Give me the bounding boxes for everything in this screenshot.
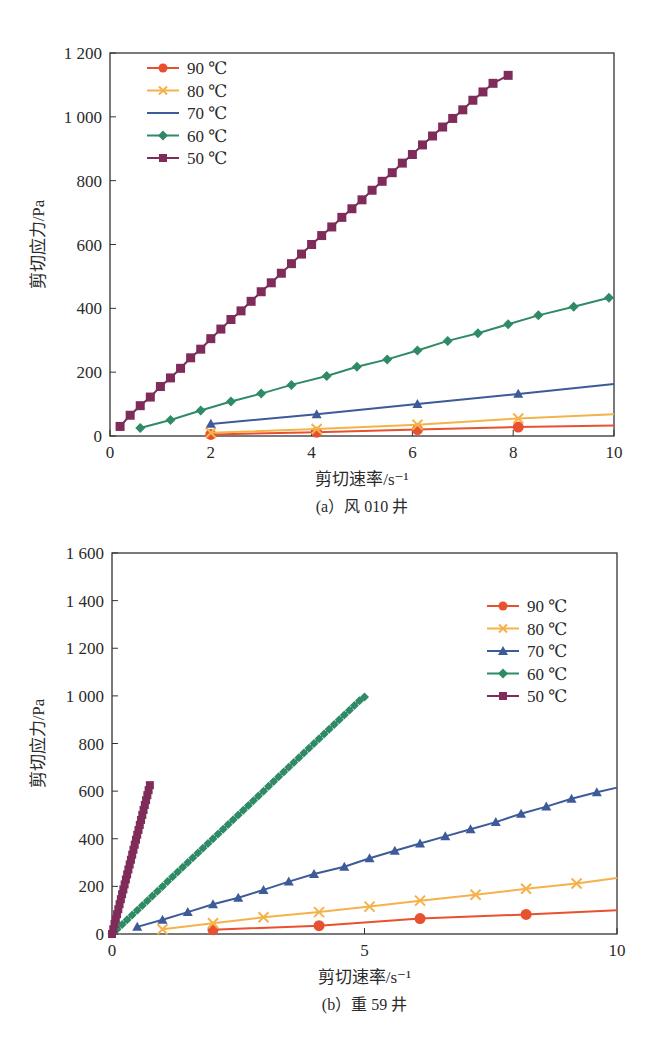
marker-circle-icon (205, 429, 216, 440)
x-axis: 0246810 (106, 430, 623, 462)
plot-frame (110, 53, 614, 436)
legend-label: 80 ℃ (187, 82, 227, 101)
legend-item: 60 ℃ (147, 127, 227, 146)
legend-item: 90 ℃ (147, 59, 227, 78)
x-axis-label: 剪切速率/s⁻¹ (318, 968, 411, 987)
marker-square-icon (297, 250, 306, 259)
marker-square-icon (478, 87, 487, 96)
marker-square-icon (277, 269, 286, 278)
marker-square-icon (358, 195, 367, 204)
marker-square-icon (499, 692, 507, 700)
legend-label: 70 ℃ (187, 104, 227, 123)
series-70c (206, 384, 614, 428)
marker-square-icon (146, 393, 155, 402)
y-tick-label: 1 200 (64, 44, 102, 63)
marker-square-icon (448, 114, 457, 123)
marker-diamond-icon (352, 362, 362, 372)
marker-square-icon (226, 315, 235, 324)
marker-square-icon (468, 96, 477, 105)
y-tick-label: 200 (79, 877, 105, 896)
marker-square-icon (166, 373, 175, 382)
legend-item: 70 ℃ (147, 104, 227, 123)
series-line (120, 75, 508, 426)
legend-label: 60 ℃ (187, 127, 227, 146)
chart-caption: (b）重 59 井 (322, 996, 407, 1014)
marker-diamond-icon (443, 336, 453, 346)
legend-label: 50 ℃ (527, 687, 567, 706)
y-tick-label: 0 (94, 427, 103, 446)
y-tick-label: 800 (77, 172, 103, 191)
marker-diamond-icon (196, 405, 206, 415)
y-tick-label: 1 400 (66, 592, 104, 611)
legend-label: 80 ℃ (527, 620, 567, 639)
y-axis: 02004006008001 0001 200 (64, 44, 116, 446)
y-tick-label: 1 200 (66, 639, 104, 658)
chart-caption: (a）风 010 井 (316, 498, 408, 516)
x-tick-label: 8 (509, 443, 518, 462)
x-axis: 0510 (108, 928, 626, 960)
marker-square-icon (438, 123, 447, 132)
y-tick-label: 1 600 (66, 544, 104, 563)
x-tick-label: 10 (606, 443, 623, 462)
marker-square-icon (489, 79, 498, 88)
marker-square-icon (327, 222, 336, 231)
marker-circle-icon (499, 602, 508, 611)
marker-square-icon (159, 154, 167, 162)
marker-circle-icon (521, 909, 532, 920)
marker-diamond-icon (286, 380, 296, 390)
legend-item: 80 ℃ (487, 620, 567, 639)
marker-square-icon (368, 186, 377, 195)
y-tick-label: 600 (77, 236, 103, 255)
legend-label: 90 ℃ (527, 597, 567, 616)
x-tick-label: 2 (207, 443, 216, 462)
marker-diamond-icon (158, 131, 168, 141)
legend-item: 70 ℃ (487, 642, 567, 661)
legend-label: 50 ℃ (187, 149, 227, 168)
marker-square-icon (458, 105, 467, 114)
series-50c (116, 71, 513, 431)
marker-square-icon (206, 334, 215, 343)
marker-diamond-icon (473, 328, 483, 338)
marker-diamond-icon (498, 669, 508, 679)
legend-item: 60 ℃ (487, 665, 567, 684)
marker-square-icon (418, 140, 427, 149)
marker-square-icon (408, 150, 417, 159)
marker-diamond-icon (165, 415, 175, 425)
marker-square-icon (267, 278, 276, 287)
marker-square-icon (136, 401, 145, 410)
marker-diamond-icon (604, 293, 614, 303)
legend: 90 ℃80 ℃70 ℃60 ℃50 ℃ (147, 59, 227, 168)
legend: 90 ℃80 ℃70 ℃60 ℃50 ℃ (487, 597, 567, 706)
y-axis-label: 剪切应力/Pa (29, 199, 48, 289)
marker-diamond-icon (412, 345, 422, 355)
marker-square-icon (186, 353, 195, 362)
marker-square-icon (398, 159, 407, 168)
marker-square-icon (237, 306, 246, 315)
marker-square-icon (428, 131, 437, 140)
series-70c (132, 787, 617, 931)
marker-square-icon (287, 259, 296, 268)
marker-diamond-icon (569, 302, 579, 312)
x-tick-label: 0 (108, 941, 117, 960)
y-tick-label: 600 (79, 782, 105, 801)
marker-diamond-icon (382, 354, 392, 364)
series-80c (158, 878, 618, 934)
x-tick-label: 6 (408, 443, 417, 462)
legend-item: 50 ℃ (487, 687, 567, 706)
legend-item: 90 ℃ (487, 597, 567, 616)
x-tick-label: 5 (360, 941, 369, 960)
x-tick-label: 0 (106, 443, 115, 462)
marker-diamond-icon (135, 423, 145, 433)
marker-square-icon (126, 411, 135, 420)
x-axis-label: 剪切速率/s⁻¹ (315, 470, 408, 489)
marker-square-icon (388, 168, 397, 177)
series-60c (135, 293, 614, 433)
marker-square-icon (176, 364, 185, 373)
marker-diamond-icon (226, 397, 236, 407)
marker-circle-icon (159, 64, 168, 73)
y-tick-label: 400 (79, 830, 105, 849)
series-group (108, 693, 618, 939)
marker-square-icon (156, 382, 165, 391)
marker-circle-icon (314, 920, 325, 931)
y-axis: 02004006008001 0001 2001 4001 600 (66, 544, 118, 944)
